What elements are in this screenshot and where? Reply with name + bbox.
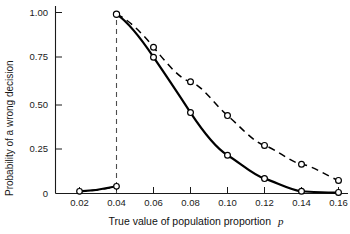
data-point-marker bbox=[188, 110, 194, 116]
data-point-marker bbox=[77, 189, 83, 195]
x-tick-label-014: 0.14 bbox=[292, 197, 311, 208]
x-tick-label-016: 0.16 bbox=[329, 197, 348, 208]
x-tick-label-012: 0.12 bbox=[255, 197, 274, 208]
data-point-marker bbox=[225, 113, 231, 119]
x-axis-title-symbol: p bbox=[277, 215, 284, 227]
data-point-marker bbox=[188, 79, 194, 85]
data-point-marker bbox=[113, 11, 119, 17]
y-tick-label-1: 1.00 bbox=[30, 7, 49, 18]
data-point-marker bbox=[151, 44, 157, 50]
data-point-marker bbox=[151, 54, 157, 60]
y-tick-label-025: 0.25 bbox=[30, 143, 49, 154]
y-tick-label-0: 0 bbox=[43, 188, 48, 199]
x-tick-label-002: 0.02 bbox=[70, 197, 89, 208]
data-point-marker bbox=[225, 152, 231, 158]
x-tick-label-008: 0.08 bbox=[181, 197, 200, 208]
x-tick-label-004: 0.04 bbox=[107, 197, 126, 208]
y-tick-label-075: 0.75 bbox=[30, 51, 49, 62]
x-axis-title-text: True value of population proportion bbox=[109, 215, 272, 227]
y-tick-label-050: 0.50 bbox=[30, 99, 49, 110]
data-point-marker bbox=[262, 143, 268, 149]
data-point-marker bbox=[262, 176, 268, 182]
y-axis-title: Probability of a wrong decision bbox=[4, 60, 15, 196]
data-point-marker bbox=[114, 184, 120, 190]
x-axis-title: True value of population proportion p bbox=[109, 215, 284, 227]
x-tick-label-010: 0.10 bbox=[218, 197, 237, 208]
data-point-marker bbox=[299, 161, 305, 167]
probability-of-wrong-decision-line-chart: Probability of a wrong decision 1.00 0.7… bbox=[0, 0, 350, 234]
chart-figure: Probability of a wrong decision 1.00 0.7… bbox=[0, 0, 350, 234]
x-tick-label-006: 0.06 bbox=[144, 197, 163, 208]
data-point-marker bbox=[336, 190, 342, 196]
data-point-marker bbox=[299, 188, 305, 194]
data-point-marker bbox=[336, 178, 342, 184]
